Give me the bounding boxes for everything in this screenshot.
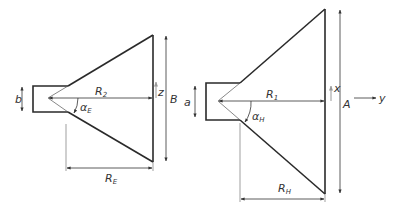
e-plane-section: b R2 αE z B RE bbox=[15, 35, 178, 186]
e-plane-apex-line-lower bbox=[48, 98, 68, 112]
label-A: A bbox=[342, 98, 351, 111]
h-plane-waveguide bbox=[206, 83, 240, 120]
label-R2: R2 bbox=[95, 85, 108, 99]
h-plane-apex-line-upper bbox=[218, 83, 240, 101]
h-plane-apex-line-lower bbox=[218, 101, 240, 120]
h-plane-flare-angle-arc bbox=[245, 101, 251, 122]
label-a: a bbox=[184, 96, 191, 109]
label-x: x bbox=[333, 82, 341, 95]
e-plane-apex-line-upper bbox=[48, 86, 68, 98]
label-RH: RH bbox=[278, 182, 292, 196]
label-RE: RE bbox=[105, 172, 118, 186]
horn-antenna-diagram: b R2 αE z B RE bbox=[0, 0, 396, 214]
label-b: b bbox=[15, 93, 22, 106]
e-plane-lower-wall bbox=[68, 112, 153, 162]
h-plane-section: a R1 αH x A y RH bbox=[184, 9, 386, 202]
label-alpha-E: αE bbox=[80, 101, 92, 115]
e-plane-upper-wall bbox=[68, 35, 153, 86]
label-alpha-H: αH bbox=[252, 110, 265, 124]
label-z: z bbox=[157, 86, 164, 99]
label-y: y bbox=[378, 92, 386, 105]
e-plane-flare-angle-arc bbox=[74, 98, 78, 113]
label-B: B bbox=[170, 93, 178, 106]
h-plane-upper-wall bbox=[240, 9, 325, 83]
label-R1: R1 bbox=[266, 88, 278, 102]
